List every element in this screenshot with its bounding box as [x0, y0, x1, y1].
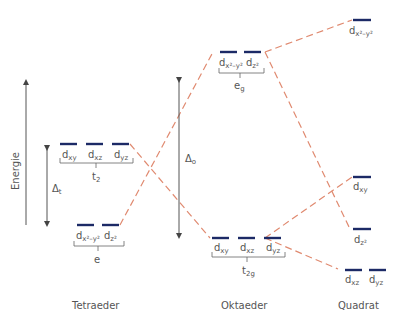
svg-text:eg: eg — [234, 80, 245, 93]
svg-text:dxz: dxz — [240, 242, 255, 255]
svg-text:dxz: dxz — [345, 274, 360, 287]
crystal-field-diagram: Energie Δt dxy dxz dyz t2 dx²–y² dz² e Δ… — [0, 0, 398, 323]
svg-text:dxy: dxy — [353, 181, 368, 194]
svg-text:dz²: dz² — [246, 57, 259, 70]
svg-text:e: e — [94, 254, 100, 265]
svg-text:Δo: Δo — [185, 153, 196, 166]
svg-text:dz²: dz² — [354, 234, 367, 247]
svg-text:Δt: Δt — [52, 183, 62, 196]
svg-text:dx²–y²: dx²–y² — [219, 57, 243, 70]
column-title-tetraeder: Tetraeder — [71, 300, 120, 311]
svg-text:t2: t2 — [92, 171, 100, 184]
svg-text:dxy: dxy — [214, 242, 229, 255]
column-quadrat: dx²–y² dxy dz² dxz dyz — [345, 20, 386, 287]
svg-text:dxy: dxy — [62, 149, 77, 162]
svg-text:dz²: dz² — [104, 230, 117, 243]
column-tetraeder: Δt dxy dxz dyz t2 dx²–y² dz² e — [47, 144, 133, 265]
column-title-quadrat: Quadrat — [338, 300, 379, 311]
correlation-lines — [120, 20, 352, 269]
energy-axis-label: Energie — [10, 152, 21, 190]
svg-text:dyz: dyz — [369, 274, 384, 287]
svg-text:t2g: t2g — [242, 265, 255, 278]
column-title-oktaeder: Oktaeder — [221, 300, 268, 311]
svg-text:dyz: dyz — [114, 149, 129, 162]
svg-text:dxz: dxz — [88, 149, 103, 162]
svg-text:dx²–y²: dx²–y² — [349, 25, 373, 38]
svg-text:dx²–y²: dx²–y² — [76, 230, 100, 243]
